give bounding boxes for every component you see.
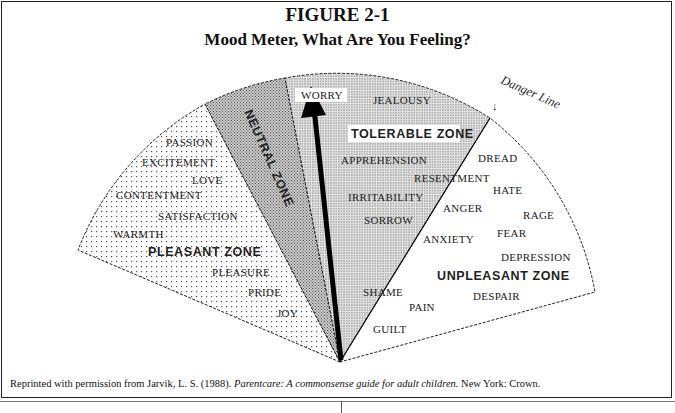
emotion-contentment: CONTENTMENT — [116, 189, 202, 201]
emotion-anger: ANGER — [443, 202, 483, 214]
emotion-irritability: IRRITABILITY — [348, 191, 423, 203]
unpleasant-zone-label: UNPLEASANT ZONE — [437, 269, 570, 283]
emotion-sorrow: SORROW — [364, 214, 413, 226]
emotion-pain: PAIN — [409, 301, 435, 313]
emotion-worry: WORRY — [301, 89, 343, 101]
emotion-resentment: RESENTMENT — [414, 172, 490, 184]
emotion-jealousy: JEALOUSY — [373, 94, 431, 106]
emotion-dread: DREAD — [478, 152, 517, 164]
emotion-satisfaction: SATISFACTION — [158, 210, 238, 222]
emotion-rage: RAGE — [523, 209, 554, 221]
emotion-pleasure: PLEASURE — [212, 266, 270, 278]
mood-meter-diagram: Danger Line ↓ PASSION EXCITEMENT LOVE CO… — [0, 0, 675, 413]
emotion-apprehension: APPREHENSION — [341, 154, 427, 166]
danger-line-label: Danger Line — [498, 73, 563, 112]
emotion-passion: PASSION — [166, 136, 213, 148]
emotion-joy: JOY — [277, 307, 298, 319]
figure-caption: Reprinted with permission from Jarvik, L… — [10, 378, 540, 389]
emotion-love: LOVE — [192, 174, 223, 186]
emotion-guilt: GUILT — [373, 323, 406, 335]
pleasant-zone-label: PLEASANT ZONE — [148, 245, 261, 259]
emotion-pride: PRIDE — [248, 286, 281, 298]
emotion-anxiety: ANXIETY — [423, 233, 474, 245]
emotion-depression: DEPRESSION — [501, 251, 571, 263]
emotion-fear: FEAR — [497, 227, 527, 239]
emotion-excitement: EXCITEMENT — [142, 156, 215, 168]
emotion-shame: SHAME — [363, 286, 403, 298]
emotion-despair: DESPAIR — [473, 290, 520, 302]
caption-prefix: Reprinted with permission from Jarvik, L… — [10, 378, 234, 389]
danger-line-arrow-icon: ↓ — [492, 100, 498, 112]
emotion-warmth: WARMTH — [113, 228, 164, 240]
emotion-hate: HATE — [493, 184, 522, 196]
caption-suffix: New York: Crown. — [458, 378, 540, 389]
caption-book-title: Parentcare: A commonsense guide for adul… — [234, 378, 458, 389]
tolerable-zone-label: TOLERABLE ZONE — [351, 127, 474, 141]
